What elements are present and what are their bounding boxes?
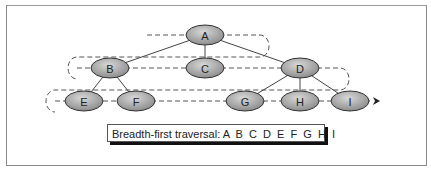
node-A: A (186, 25, 224, 45)
node-label: F (133, 96, 140, 108)
traversal-caption: Breadth-first traversal: A B C D E F G H… (107, 124, 325, 142)
node-label: G (241, 96, 250, 108)
node-B: B (91, 58, 129, 78)
node-label: I (348, 96, 351, 108)
node-label: E (80, 96, 87, 108)
node-C: C (186, 58, 224, 78)
node-E: E (65, 91, 103, 111)
arrowhead-icon (373, 97, 380, 105)
tree-diagram: ABCDEFGHI (0, 0, 431, 171)
node-H: H (281, 91, 319, 111)
node-label: A (201, 30, 209, 42)
node-G: G (226, 91, 264, 111)
node-label: B (106, 63, 113, 75)
node-F: F (117, 91, 155, 111)
node-I: I (331, 91, 369, 111)
caption-sequence: A B C D E F G H I (223, 128, 335, 140)
node-D: D (281, 58, 319, 78)
tree-nodes: ABCDEFGHI (65, 25, 369, 111)
node-label: H (296, 96, 304, 108)
caption-prefix: Breadth-first traversal: (112, 128, 220, 140)
node-label: D (296, 63, 304, 75)
node-label: C (201, 63, 209, 75)
